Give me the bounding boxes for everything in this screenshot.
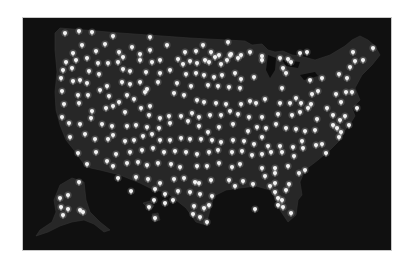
map-pin-icon[interactable]	[114, 174, 121, 182]
map-pin-icon[interactable]	[322, 149, 329, 157]
map-pin-icon[interactable]	[249, 180, 256, 188]
map-pin-icon[interactable]	[353, 104, 360, 112]
map-pin-icon[interactable]	[303, 48, 310, 56]
map-pin-icon[interactable]	[203, 218, 210, 226]
map-pin-icon[interactable]	[145, 203, 152, 211]
alaska-landmass	[36, 178, 110, 236]
us-map[interactable]	[0, 0, 410, 264]
map-pin-icon[interactable]	[251, 205, 258, 213]
map-pin-icon[interactable]	[161, 190, 168, 198]
map-pin-icon[interactable]	[161, 199, 168, 207]
map-pin-icon[interactable]	[169, 196, 176, 204]
map-pin-icon[interactable]	[151, 185, 158, 193]
map-pin-icon[interactable]	[127, 187, 134, 195]
